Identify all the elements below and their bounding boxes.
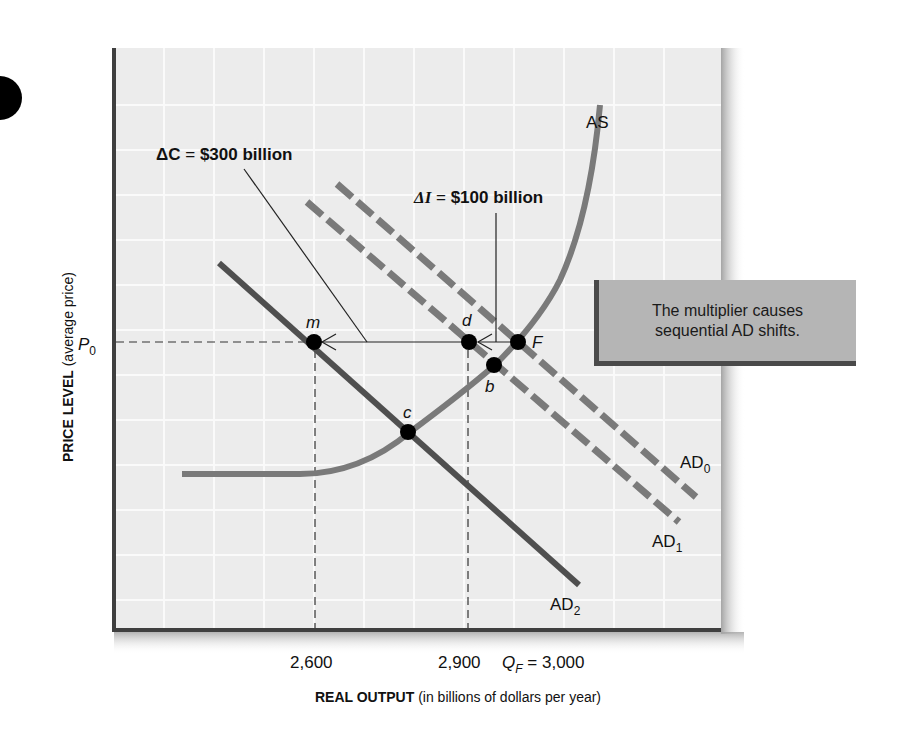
- x-tick-2600: 2,600: [290, 653, 333, 672]
- x-tick-2900: 2,900: [438, 653, 481, 672]
- annotation-line-1: The multiplier causes: [652, 301, 803, 321]
- point-b: [486, 357, 502, 373]
- delta-c-annotation: ΔC = $300 billion: [156, 145, 292, 164]
- label-c: c: [403, 403, 412, 422]
- point-m: [306, 334, 322, 350]
- point-d: [461, 334, 477, 350]
- y-axis-label: PRICE LEVEL (average price): [60, 272, 76, 462]
- annotation-box: The multiplier causes sequential AD shif…: [594, 280, 856, 366]
- annotation-line-2: sequential AD shifts.: [652, 321, 803, 341]
- label-as: AS: [586, 113, 609, 132]
- ad-multiplier-chart: m d F b c AS AD0 AD1 AD2 ΔC = $300 billi…: [0, 0, 906, 734]
- delta-i-annotation: ΔI = $100 billion: [413, 188, 543, 207]
- label-b: b: [485, 377, 494, 396]
- label-d: d: [462, 311, 472, 330]
- x-tick-qf: QF = 3,000: [502, 653, 585, 676]
- y-tick-p0: P0: [78, 335, 96, 358]
- bullet-marker: [0, 76, 22, 120]
- x-axis-label: REAL OUTPUT (in billions of dollars per …: [0, 689, 906, 705]
- point-F: [510, 334, 526, 350]
- point-c: [400, 424, 416, 440]
- label-m: m: [306, 313, 320, 332]
- label-F: F: [532, 333, 544, 352]
